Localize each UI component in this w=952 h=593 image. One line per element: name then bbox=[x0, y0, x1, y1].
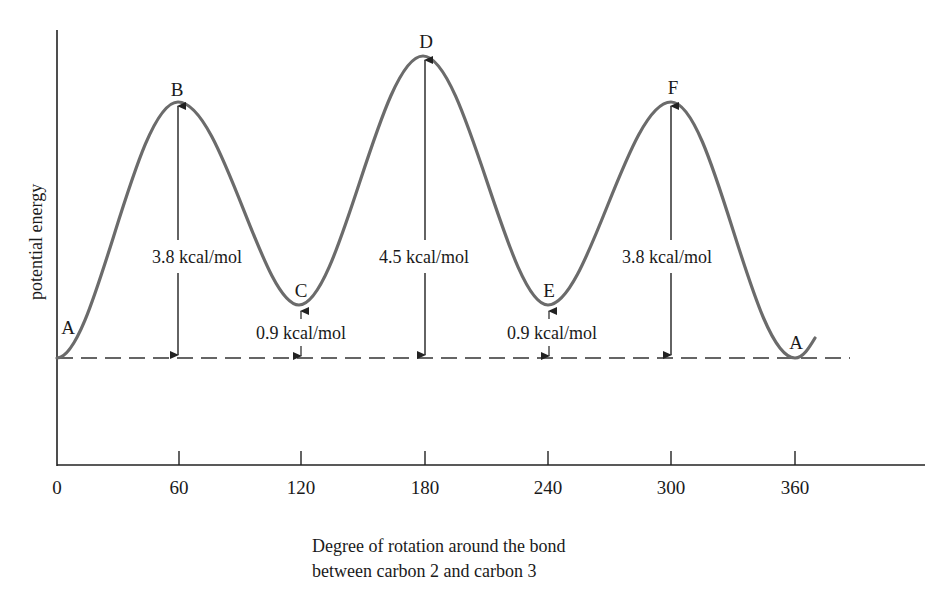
point-label-f: F bbox=[668, 77, 679, 98]
annotation-e: 0.9 kcal/mol bbox=[507, 323, 597, 343]
x-tick-labels: 0 60 120 180 240 300 360 bbox=[52, 477, 809, 498]
annotation-d: 4.5 kcal/mol bbox=[379, 247, 469, 267]
point-label-a-start: A bbox=[61, 317, 75, 338]
x-tick-label: 300 bbox=[657, 477, 686, 498]
point-label-e: E bbox=[543, 280, 555, 301]
x-tick-label: 120 bbox=[287, 477, 316, 498]
energy-diagram-chart: 0 60 120 180 240 300 360 Degree of rotat… bbox=[0, 0, 952, 593]
x-axis-title-line1: Degree of rotation around the bond bbox=[312, 536, 565, 556]
x-tick-label: 360 bbox=[781, 477, 810, 498]
x-axis-title-line2: between carbon 2 and carbon 3 bbox=[312, 561, 536, 581]
point-label-b: B bbox=[171, 79, 184, 100]
annotation-f: 3.8 kcal/mol bbox=[622, 247, 712, 267]
annotation-c: 0.9 kcal/mol bbox=[256, 323, 346, 343]
point-label-c: C bbox=[295, 280, 308, 301]
x-tick-label: 180 bbox=[411, 477, 440, 498]
point-label-d: D bbox=[419, 31, 433, 52]
x-axis-title: Degree of rotation around the bond betwe… bbox=[312, 536, 565, 581]
x-ticks bbox=[179, 451, 795, 465]
annotation-b: 3.8 kcal/mol bbox=[152, 247, 242, 267]
energy-curve bbox=[57, 56, 815, 358]
x-tick-label: 0 bbox=[52, 477, 62, 498]
y-axis-title: potential energy bbox=[26, 184, 46, 300]
x-tick-label: 60 bbox=[170, 477, 189, 498]
point-label-a-end: A bbox=[789, 332, 803, 353]
x-tick-label: 240 bbox=[534, 477, 563, 498]
